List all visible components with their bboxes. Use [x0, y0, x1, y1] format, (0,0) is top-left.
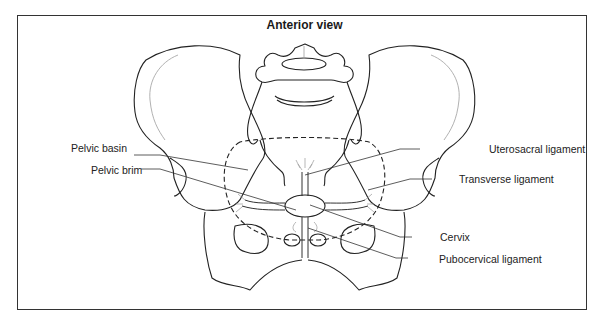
label-transverse-ligament: Transverse ligament — [459, 173, 554, 185]
label-cervix: Cervix — [440, 231, 470, 243]
label-pelvic-basin: Pelvic basin — [71, 142, 127, 154]
lumbar-vertebra — [256, 44, 353, 83]
transverse-ligaments — [236, 194, 374, 212]
right-iliac-wing — [344, 46, 475, 211]
label-pelvic-brim: Pelvic brim — [91, 164, 142, 176]
label-pubocervical-ligament: Pubocervical ligament — [439, 253, 542, 265]
figure-title: Anterior view — [0, 18, 609, 32]
left-iliac-wing — [134, 46, 265, 211]
pelvis-illustration — [0, 0, 609, 322]
pelvic-inner-walls — [260, 140, 349, 186]
pubocervical-ligament — [284, 217, 326, 258]
sacrum — [248, 82, 362, 144]
uterosacral-ligament — [296, 158, 314, 196]
label-uterosacral-ligament: Uterosacral ligament — [489, 143, 585, 155]
cervix-shape — [285, 195, 325, 217]
